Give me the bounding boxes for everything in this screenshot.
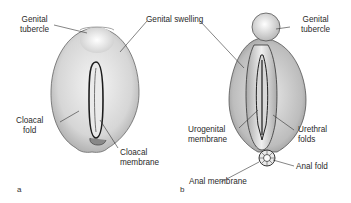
- label-line: Anal membrane: [189, 177, 247, 186]
- panel-a-illustration: [51, 27, 139, 152]
- label-line: tubercle: [20, 25, 49, 35]
- label-cloacal-fold: Cloacal fold: [16, 116, 43, 135]
- label-line: Cloacal: [16, 116, 43, 126]
- label-line: Urogenital: [188, 125, 227, 135]
- label-line: folds: [298, 135, 327, 145]
- panel-b-illustration: [229, 13, 306, 166]
- label-anal-fold: Anal fold: [296, 162, 328, 172]
- label-anal-membrane: Anal membrane: [189, 177, 247, 187]
- label-genital-swelling: Genital swelling: [146, 15, 203, 25]
- label-line: Urethral: [298, 125, 327, 135]
- label-line: membrane: [188, 135, 227, 145]
- label-line: membrane: [120, 158, 159, 168]
- label-genital-tubercle-a: Genital tubercle: [20, 15, 49, 34]
- panel-letter-b: b: [180, 185, 184, 194]
- label-urethral-folds: Urethral folds: [298, 125, 327, 144]
- label-line: Cloacal: [120, 148, 159, 158]
- label-line: Genital: [301, 15, 330, 25]
- label-cloacal-membrane: Cloacal membrane: [120, 148, 159, 167]
- label-genital-tubercle-b: Genital tubercle: [301, 15, 330, 34]
- label-line: fold: [16, 126, 43, 136]
- panel-letter-a: a: [17, 185, 21, 194]
- label-line: tubercle: [301, 25, 330, 35]
- label-line: Genital swelling: [146, 15, 203, 24]
- label-urogenital-membrane: Urogenital membrane: [188, 125, 227, 144]
- embryo-diagram-art: [0, 0, 351, 203]
- label-line: Anal fold: [296, 162, 328, 171]
- label-line: Genital: [20, 15, 49, 25]
